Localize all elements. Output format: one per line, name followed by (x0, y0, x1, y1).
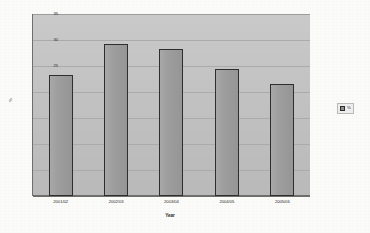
x-tick-label-2003-04: 2003/04 (144, 200, 199, 204)
bar-2005-06[interactable] (270, 84, 294, 196)
bar-slot (255, 14, 310, 196)
bar-series (33, 14, 310, 196)
bar-2004-05[interactable] (215, 69, 239, 196)
legend-swatch-icon (340, 106, 345, 111)
bar-2003-04[interactable] (159, 49, 183, 196)
bar-slot (144, 14, 199, 196)
bar-2002-03[interactable] (104, 44, 128, 196)
x-tick-label-2004-05: 2004/05 (199, 200, 254, 204)
bar-2001-02[interactable] (49, 75, 73, 196)
page-background: 35 30 25 20 15 10 5 0 % (0, 0, 370, 233)
bar-slot (88, 14, 143, 196)
bar-slot (33, 14, 88, 196)
bar-chart: 35 30 25 20 15 10 5 0 % (0, 0, 370, 233)
x-tick-label-2005-06: 2005/06 (255, 200, 310, 204)
legend-label: % (347, 106, 351, 110)
y-axis-title: % (9, 98, 13, 102)
x-axis-title: Year (0, 214, 340, 219)
bar-slot (199, 14, 254, 196)
x-tick-label-2001-02: 2001/02 (33, 200, 88, 204)
gridline-0 (33, 196, 310, 197)
chart-legend[interactable]: % (337, 103, 354, 114)
x-tick-label-2002-03: 2002/03 (88, 200, 143, 204)
